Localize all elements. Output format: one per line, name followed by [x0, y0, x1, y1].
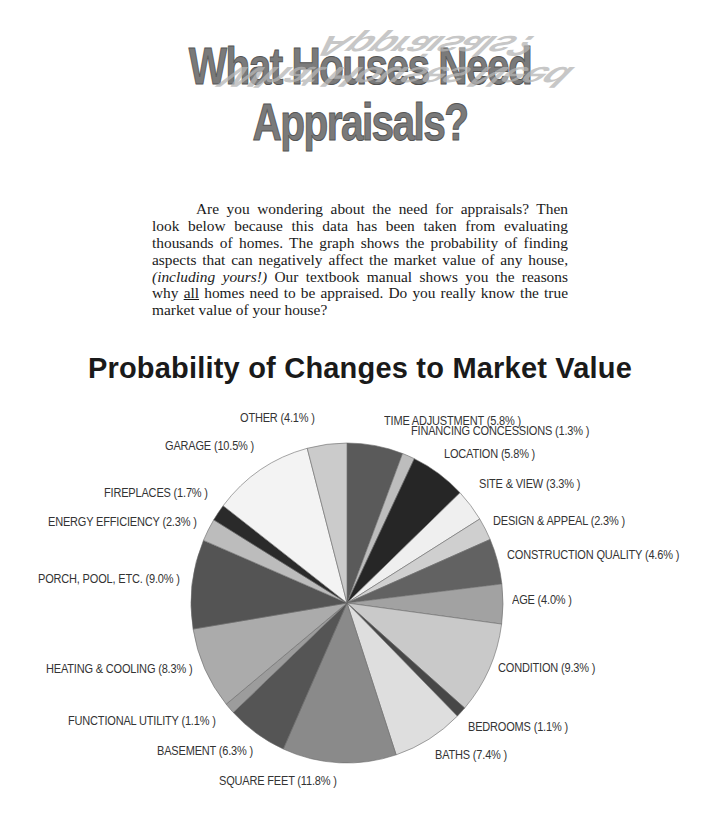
label-basement: BASEMENT (6.3% ) — [157, 744, 253, 758]
label-functional-utility: FUNCTIONAL UTILITY (1.1% ) — [68, 714, 216, 728]
pie-chart — [0, 0, 717, 827]
label-condition: CONDITION (9.3% ) — [498, 661, 595, 675]
label-porch-pool: PORCH, POOL, ETC. (9.0% ) — [38, 572, 180, 586]
label-location: LOCATION (5.8% ) — [444, 447, 535, 461]
label-design-appeal: DESIGN & APPEAL (2.3% ) — [493, 514, 625, 528]
label-construction-quality: CONSTRUCTION QUALITY (4.6% ) — [507, 548, 679, 562]
label-other: OTHER (4.1% ) — [240, 411, 315, 425]
label-financing-concessions: FINANCING CONCESSIONS (1.3% ) — [411, 424, 589, 438]
label-bedrooms: BEDROOMS (1.1% ) — [468, 720, 568, 734]
label-site-view: SITE & VIEW (3.3% ) — [479, 477, 580, 491]
label-heating-cooling: HEATING & COOLING (8.3% ) — [46, 662, 192, 676]
label-fireplaces: FIREPLACES (1.7% ) — [104, 486, 208, 500]
label-garage: GARAGE (10.5% ) — [165, 439, 254, 453]
label-age: AGE (4.0% ) — [512, 593, 572, 607]
label-energy-efficiency: ENERGY EFFICIENCY (2.3% ) — [48, 515, 197, 529]
label-square-feet: SQUARE FEET (11.8% ) — [219, 774, 337, 788]
label-baths: BATHS (7.4% ) — [435, 748, 507, 762]
